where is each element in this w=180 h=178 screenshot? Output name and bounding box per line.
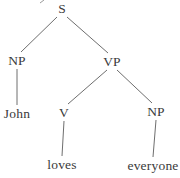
tree-edges [0, 0, 180, 178]
leaf-loves: loves [47, 158, 77, 172]
tree-branch-VP-V [68, 70, 107, 104]
leaf-john: John [4, 107, 30, 121]
node-np-subject: NP [8, 54, 26, 68]
node-s: S [58, 2, 66, 16]
syntax-tree-diagram: S NP VP John V NP loves everyone [0, 0, 180, 178]
node-vp: VP [103, 55, 121, 69]
node-np-object: NP [147, 105, 165, 119]
crop-artifact-mark [40, 0, 44, 3]
tree-branch-V-loves [62, 121, 64, 156]
tree-branch-VP-NP2 [117, 70, 152, 103]
tree-branch-S-VP [67, 17, 108, 53]
leaf-everyone: everyone [127, 159, 178, 173]
tree-branch-S-NP1 [21, 17, 57, 52]
tree-branch-NP2-everyone [153, 120, 156, 157]
node-v: V [59, 106, 69, 120]
